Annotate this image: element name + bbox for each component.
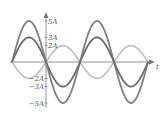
y-tick-label: −3A — [29, 83, 44, 91]
y-tick-label: −2A — [29, 75, 44, 83]
y-tick-label: 2A — [47, 42, 58, 50]
waveform-diagram: t 5A3A2A−2A−3A−5A — [0, 0, 168, 117]
y-tick-label: 3A — [48, 34, 58, 42]
y-tick-label: −5A — [29, 100, 44, 108]
t-axis-label: t — [156, 63, 159, 71]
t-axis-arrow-icon — [149, 60, 155, 65]
y-tick-label: 5A — [48, 18, 58, 26]
